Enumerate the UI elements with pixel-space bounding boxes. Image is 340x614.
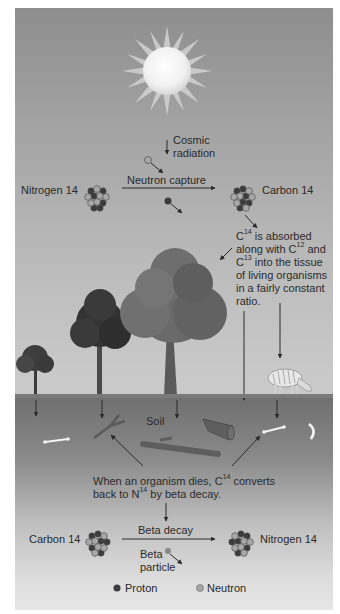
decay-to-bone-arrow (232, 436, 260, 466)
cosmic-radiation-label: Cosmic radiation (173, 134, 215, 160)
proton-legend-marker (114, 585, 121, 592)
bone-icon (43, 437, 70, 444)
incoming-neutron-icon (145, 157, 164, 174)
neutron-capture-label: Neutron capture (127, 174, 206, 187)
c14-to-atmosphere-arrow (245, 215, 257, 228)
horn-icon (309, 424, 314, 439)
carbon-14-label: Carbon 14 (262, 184, 313, 197)
decay-note: When an organism dies, C14 converts back… (93, 475, 293, 501)
decay-to-twig-arrow (111, 435, 143, 466)
neutron-legend-label: Neutron (207, 582, 246, 595)
sun-icon (122, 26, 212, 116)
beta-decay-label: Beta decay (138, 524, 193, 537)
animal-bone-icon (262, 425, 286, 434)
grazing-animal-icon (268, 369, 312, 395)
nitrogen-14-nucleus-icon (85, 186, 109, 211)
beta-particle-label: Beta particle (140, 548, 175, 574)
large-tree-icon (120, 248, 227, 396)
carbon-14-nucleus-icon (231, 186, 255, 211)
soil-label: Soil (146, 415, 164, 428)
small-tree-icon (16, 345, 54, 396)
ejected-proton-icon (165, 198, 183, 214)
twig-icon (94, 415, 125, 438)
nitrogen-14-nucleus-bottom-icon (229, 531, 253, 556)
carbon-14-nucleus-bottom-icon (86, 531, 110, 556)
carbon-14-bottom-label: Carbon 14 (29, 533, 80, 546)
absorption-to-tree-arrow (220, 248, 232, 260)
neutron-legend-marker (197, 585, 204, 592)
nitrogen-14-bottom-label: Nitrogen 14 (260, 533, 317, 546)
nitrogen-14-label: Nitrogen 14 (21, 184, 78, 197)
stump-icon (203, 419, 235, 440)
absorption-note: C14 is absorbed along with C12 and C13 i… (236, 230, 330, 308)
proton-legend-label: Proton (125, 582, 157, 595)
diagram-graphics (15, 8, 333, 610)
diagram-panel: Cosmic radiation Nitrogen 14 Neutron cap… (15, 8, 333, 610)
log-icon (143, 438, 218, 454)
